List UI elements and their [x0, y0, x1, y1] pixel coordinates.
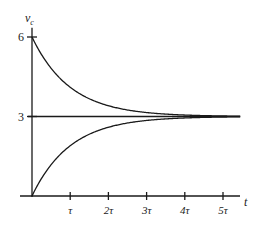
plot-area — [28, 37, 240, 196]
chart: 63 τ2τ3τ4τ5τ vc t — [0, 0, 261, 227]
y-tick-label: 3 — [18, 110, 24, 124]
x-tick-label: 3τ — [141, 204, 153, 216]
y-axis-label: vc — [25, 11, 34, 27]
x-axis-label: t — [244, 195, 248, 209]
y-ticks: 63 — [18, 30, 37, 124]
x-tick-label: 2τ — [104, 204, 115, 216]
x-tick-label: 5τ — [218, 204, 229, 216]
x-tick-label: 4τ — [180, 204, 191, 216]
rise-curve — [32, 117, 240, 196]
decay-curve — [32, 37, 240, 116]
x-tick-label: τ — [68, 204, 73, 216]
y-tick-label: 6 — [18, 30, 24, 44]
